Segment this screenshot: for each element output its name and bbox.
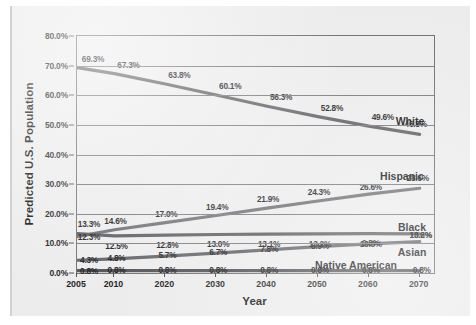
x-axis-tick-mark — [215, 273, 216, 277]
y-axis-tick-label: 70.0% — [45, 61, 68, 71]
gridline — [77, 184, 434, 185]
x-axis-tick-mark — [368, 273, 369, 277]
x-axis-tick-mark — [419, 273, 420, 277]
x-axis-tick-label: 2020 — [155, 279, 175, 289]
y-axis-tick-mark — [69, 95, 74, 96]
y-axis-tick-mark — [69, 273, 74, 274]
y-axis-tick-label: 80.0% — [45, 31, 68, 41]
y-axis-tick-label: 0.0% — [49, 268, 68, 278]
y-axis: 0.0%10.0%20.0%30.0%40.0%50.0%60.0%70.0%8… — [12, 35, 76, 274]
data-label: 5.7% — [158, 250, 176, 260]
y-axis-tick-label: 30.0% — [45, 179, 68, 189]
x-axis-title: Year — [76, 295, 433, 307]
y-axis-tick-label: 50.0% — [45, 120, 68, 130]
data-label: 12.8% — [156, 240, 178, 250]
y-axis-tick-mark — [69, 184, 74, 185]
x-axis-tick-mark — [266, 273, 267, 277]
gridline — [77, 125, 434, 126]
data-label: 4.8% — [108, 253, 126, 263]
series-line-black — [77, 234, 420, 236]
y-axis-tick-label: 60.0% — [45, 90, 68, 100]
chart-figure: Predicted U.S. Population 0.0%10.0%20.0%… — [0, 0, 476, 325]
x-axis-tick-label: 2070 — [409, 279, 429, 289]
data-label: 19.4% — [206, 202, 228, 212]
x-axis-tick-label: 2040 — [256, 279, 276, 289]
data-label: 6.7% — [209, 247, 227, 257]
y-axis-tick-mark — [69, 65, 74, 66]
gridline — [77, 95, 434, 96]
y-axis-tick-mark — [69, 213, 74, 214]
data-label: 14.6% — [104, 216, 126, 226]
data-label: 13.3% — [78, 219, 100, 229]
gridline — [77, 66, 434, 67]
y-axis-tick-label: 40.0% — [45, 150, 68, 160]
data-label: 4.3% — [80, 255, 98, 265]
data-label: 63.8% — [168, 70, 190, 80]
x-axis-tick-label: 2005 — [66, 279, 86, 289]
x-axis: 20052010202020302040205020602070 — [76, 273, 433, 295]
x-axis-tick-label: 2050 — [307, 279, 327, 289]
data-label: 56.3% — [270, 92, 292, 102]
data-label: 8.9% — [311, 241, 329, 251]
x-axis-tick-mark — [317, 273, 318, 277]
y-axis-tick-label: 20.0% — [45, 209, 68, 219]
gridline — [77, 155, 434, 156]
y-axis-tick-mark — [69, 154, 74, 155]
data-label: 24.3% — [308, 187, 330, 197]
data-label: 52.8% — [321, 103, 343, 113]
series-line-hispanic — [77, 188, 420, 236]
data-label: 12.3% — [78, 232, 100, 242]
x-axis-tick-label: 2030 — [205, 279, 225, 289]
data-label: 69.3% — [82, 54, 104, 64]
data-label: 21.9% — [257, 194, 279, 204]
y-axis-tick-mark — [69, 36, 74, 37]
series-label-black: Black — [398, 221, 426, 233]
y-axis-tick-mark — [69, 124, 74, 125]
data-label: 49.6% — [372, 112, 394, 122]
x-axis-tick-mark — [164, 273, 165, 277]
y-axis-tick-label: 10.0% — [45, 238, 68, 248]
x-axis-tick-label: 2010 — [104, 279, 124, 289]
y-axis-tick-mark — [69, 243, 74, 244]
x-axis-tick-mark — [76, 273, 77, 277]
data-label: 60.1% — [219, 81, 241, 91]
series-label-native-american: Native American — [315, 259, 397, 271]
series-label-asian: Asian — [398, 246, 427, 258]
plot-area: 69.3%67.3%63.8%60.1%56.3%52.8%49.6%46.8%… — [76, 35, 435, 274]
data-label: 67.3% — [117, 60, 139, 70]
x-axis-tick-label: 2060 — [358, 279, 378, 289]
chart-panel: Predicted U.S. Population 0.0%10.0%20.0%… — [10, 6, 470, 316]
x-axis-tick-mark — [113, 273, 114, 277]
series-label-hispanic: Hispanic — [380, 170, 424, 182]
gridline — [77, 214, 434, 215]
gridline — [77, 243, 434, 244]
data-label: 7.8% — [260, 244, 278, 254]
